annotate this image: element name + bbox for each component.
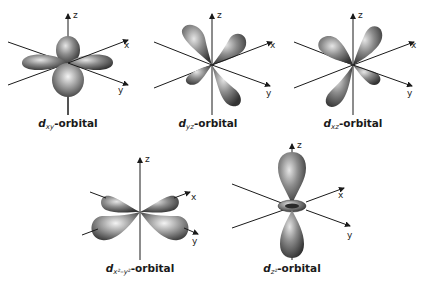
x-axis-label: x [191, 192, 196, 202]
x-axis-label: x [411, 40, 416, 50]
dyz-caption: dyz-orbital [179, 117, 238, 131]
dx2y2-caption: dx²–y²-orbital [106, 262, 175, 276]
z-axis-label: z [217, 10, 222, 20]
dz2-caption: dz²-orbital [263, 262, 321, 276]
x-axis-label: x [270, 40, 275, 50]
z-axis-label: z [145, 154, 150, 164]
dxy-orbital-panel: z x y dxy-orbital [0, 0, 140, 140]
dx2y2-orbital-panel: z x y dx²–y²-orbital [60, 140, 220, 283]
dz2-orbital-panel: z x y dz²-orbital [210, 140, 380, 283]
z-axis-label: z [358, 10, 363, 20]
y-axis-label: y [118, 85, 123, 95]
y-axis-label: y [192, 236, 197, 246]
dxy-caption: dxy-orbital [38, 117, 97, 131]
dxz-caption: dxz-orbital [324, 117, 383, 131]
y-axis-label: y [266, 88, 271, 98]
z-axis-label: z [73, 10, 78, 20]
y-axis-label: y [407, 88, 412, 98]
x-axis-label: x [338, 190, 343, 200]
z-axis-label: z [297, 140, 302, 150]
dyz-orbital-panel: z x y dyz-orbital [140, 0, 280, 140]
dxz-orbital-panel: z x y dxz-orbital [280, 0, 422, 140]
y-axis-label: y [347, 230, 352, 240]
x-axis-label: x [124, 40, 129, 50]
